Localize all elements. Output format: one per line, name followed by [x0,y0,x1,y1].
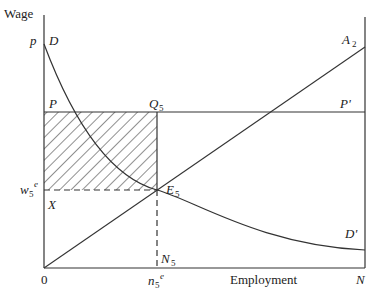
svg-text:e: e [160,271,164,281]
label-N5: N 5 [160,251,176,268]
label-P: P [48,96,57,111]
label-Q5: Q 5 [149,96,164,113]
label-X: X [47,197,57,212]
label-D: D [48,33,59,48]
label-n5e: n 5 e [148,271,164,290]
svg-text:w: w [20,182,29,197]
y-axis-label: Wage [4,6,33,21]
x-end-label-N: N [355,272,366,287]
label-w5e: w 5 e [20,179,38,199]
label-D-prime: D' [344,226,357,241]
svg-text:5: 5 [29,189,34,199]
svg-text:N: N [160,251,171,266]
svg-text:2: 2 [352,39,357,49]
label-A2: A 2 [341,32,357,49]
label-E5: E 5 [165,182,180,199]
svg-text:5: 5 [171,258,176,268]
svg-text:5: 5 [175,189,180,199]
label-P-prime: P' [339,96,351,111]
svg-text:e: e [34,179,38,189]
origin-label: 0 [41,272,48,287]
svg-text:Q: Q [149,96,159,111]
svg-text:5: 5 [155,280,160,290]
hatched-area [44,112,157,190]
svg-text:n: n [148,273,155,288]
x-axis-label: Employment [230,272,298,287]
label-p: p [29,33,37,48]
labour-market-diagram: Wage p D P P' Q 5 A 2 E 5 w 5 e X N 5 D'… [0,0,378,303]
svg-text:5: 5 [159,103,164,113]
svg-text:A: A [341,32,350,47]
svg-text:E: E [165,182,174,197]
